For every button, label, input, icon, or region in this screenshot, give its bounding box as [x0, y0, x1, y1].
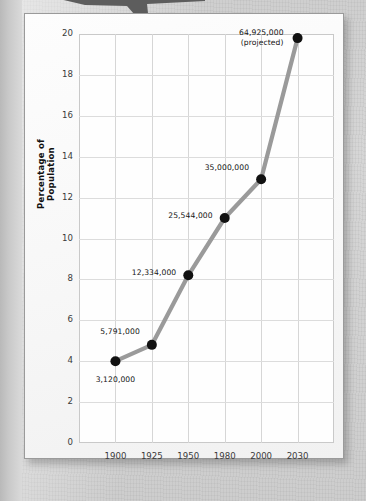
data-point-label: 35,000,000 [154, 163, 249, 172]
y-tick-label: 0 [47, 437, 73, 447]
x-tick-label: 2000 [241, 451, 281, 461]
y-tick-label: 8 [47, 273, 73, 283]
x-tick-label: 2030 [278, 451, 318, 461]
y-tick-label: 4 [47, 355, 73, 365]
data-point-label: 64,925,000 (projected) [189, 28, 284, 47]
data-point-marker [256, 174, 266, 184]
data-point-marker [147, 340, 157, 350]
x-tick-label: 1900 [95, 451, 135, 461]
page-left-edge-shadow [0, 0, 22, 501]
y-axis-title: Percentage of Population [36, 119, 56, 229]
x-tick-label: 1950 [168, 451, 208, 461]
data-point-label: 25,544,000 [118, 211, 213, 220]
chart-card: Percentage of Population Year 0246810121… [24, 13, 344, 459]
x-tick-label: 1925 [132, 451, 172, 461]
data-point-label: 5,791,000 [45, 327, 140, 336]
plot-area: 3,120,0005,791,00012,334,00025,544,00035… [79, 34, 334, 443]
x-tick-label: 1980 [205, 451, 245, 461]
y-tick-label: 14 [47, 151, 73, 161]
data-point-label: 12,334,000 [81, 268, 176, 277]
data-point-marker [183, 270, 193, 280]
series-line [115, 38, 297, 361]
y-tick-label: 12 [47, 192, 73, 202]
data-point-marker [293, 33, 303, 43]
y-tick-label: 18 [47, 69, 73, 79]
data-point-label: 3,120,000 [70, 375, 160, 384]
y-tick-label: 6 [47, 314, 73, 324]
y-tick-label: 16 [47, 110, 73, 120]
y-tick-label: 20 [47, 28, 73, 38]
data-point-marker [220, 213, 230, 223]
data-point-marker [110, 356, 120, 366]
y-tick-label: 2 [47, 396, 73, 406]
y-tick-label: 10 [47, 233, 73, 243]
